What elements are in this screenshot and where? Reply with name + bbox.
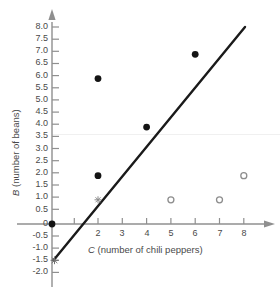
y-tick-label: -0.5	[14, 231, 48, 240]
x-tick-label: 3	[112, 229, 132, 238]
x-tick-label: 5	[161, 229, 181, 238]
regression-line	[54, 27, 246, 260]
data-point-open	[168, 197, 174, 203]
y-tick-label: 5.5	[14, 83, 48, 92]
x-axis-symbol: C	[88, 244, 95, 255]
star-marker	[51, 256, 59, 264]
y-tick-label: 6.5	[14, 58, 48, 67]
y-tick-label: 0.5	[14, 205, 48, 214]
data-point-filled	[192, 51, 199, 58]
y-tick-label: 7.0	[14, 46, 48, 55]
data-point-filled	[143, 124, 150, 131]
star-marker	[95, 196, 102, 203]
y-tick-label: 6.0	[14, 71, 48, 80]
data-point-filled	[49, 221, 56, 228]
x-tick-label: 8	[234, 229, 254, 238]
y-tick-label: -2.0	[14, 267, 48, 276]
y-axis-symbol: B	[10, 190, 21, 196]
scatter-chart: 8.0 7.5 7.0 6.5 6.0 5.5 5.0 4.5 4.0 3.5 …	[0, 0, 280, 292]
data-point-open	[168, 173, 247, 203]
y-axis-ticks	[52, 27, 59, 272]
x-axis-ticks	[74, 218, 244, 224]
y-axis-description: (number of beans)	[10, 109, 21, 187]
data-point-filled	[95, 172, 102, 179]
y-tick-label: 7.5	[14, 34, 48, 43]
y-axis-arrow-icon	[48, 9, 55, 20]
y-tick-label: 5.0	[14, 95, 48, 104]
y-axis-title: B (number of beans)	[11, 109, 21, 196]
x-axis-description: (number of chili peppers)	[98, 244, 203, 255]
y-tick-label: 0	[14, 219, 48, 228]
data-point-filled	[95, 75, 102, 82]
y-tick-label: 8.0	[14, 22, 48, 31]
data-point-open	[217, 197, 223, 203]
x-tick-label: 4	[137, 229, 157, 238]
x-axis-title: C (number of chili peppers)	[88, 245, 203, 255]
x-tick-label: 7	[210, 229, 230, 238]
y-tick-label: -1.0	[14, 243, 48, 252]
x-axis-arrow-icon	[264, 221, 275, 228]
data-point-filled	[49, 51, 199, 228]
y-tick-label: -1.5	[14, 255, 48, 264]
data-point-open	[241, 173, 247, 179]
x-tick-label: 2	[88, 229, 108, 238]
x-tick-label: 6	[185, 229, 205, 238]
